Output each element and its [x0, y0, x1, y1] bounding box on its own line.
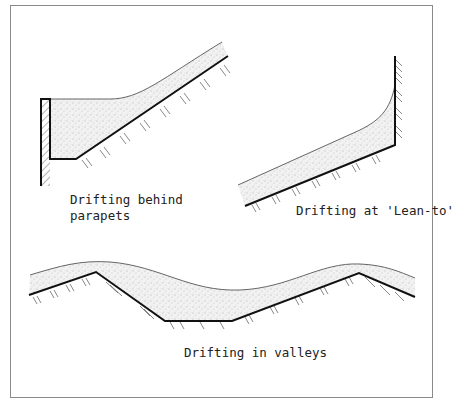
figure-caption-clipped [0, 402, 442, 410]
parapet-snow-drift [50, 42, 228, 159]
lean-to-panel [238, 56, 402, 212]
parapet-panel [41, 42, 230, 186]
parapet-label-line-1: Drifting behind [70, 192, 183, 208]
valley-label-line-1: Drifting in valleys [184, 345, 327, 361]
lean-to-snow-drift [238, 85, 395, 206]
valley-panel [29, 262, 415, 329]
lean-to-wall-hatching [396, 60, 402, 138]
parapet-label-line-2: parapets [70, 208, 183, 224]
parapet-wall-hatch [41, 100, 50, 186]
lean-to-label: Drifting at 'Lean-to' [296, 203, 454, 219]
valley-snow-drift [29, 262, 415, 321]
valley-label: Drifting in valleys [184, 345, 327, 361]
parapet-label: Drifting behind parapets [70, 192, 183, 224]
lean-to-label-line-1: Drifting at 'Lean-to' [296, 203, 454, 219]
